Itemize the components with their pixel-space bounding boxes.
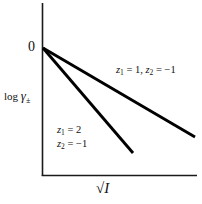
series1-var2-subscript: 2 [150, 68, 154, 77]
x-axis-title: √I [96, 181, 109, 196]
plus-minus-subscript: ± [26, 96, 30, 105]
series2-line1: z1 = 2 [57, 124, 81, 135]
series1-var1-value: = 1, [126, 64, 142, 75]
series2-var2-subscript: 2 [61, 142, 65, 151]
radical-icon: √ [96, 180, 104, 196]
y-axis-title: log γ± [4, 89, 30, 105]
series-annotation-z1-2-z2-minus1: z1 = 2 z2 = −1 [57, 125, 87, 151]
series1-var2-value: = −1 [156, 64, 176, 75]
series1-var1-subscript: 1 [120, 68, 124, 77]
y-axis-title-text: log [4, 90, 18, 102]
debye-huckel-plot-figure: 0 log γ± √I z1 = 1, z2 = −1 z1 = 2 z2 = … [0, 0, 202, 204]
y-axis-zero-tick-label: 0 [28, 40, 35, 54]
series2-var2-value: = −1 [67, 138, 87, 149]
x-axis-radicand: I [104, 180, 109, 196]
series2-var1-value: = 2 [67, 124, 81, 135]
series2-var1-subscript: 1 [61, 128, 65, 137]
series-annotation-z1-1-z2-minus1: z1 = 1, z2 = −1 [116, 65, 176, 76]
series2-line2: z2 = −1 [57, 139, 87, 150]
